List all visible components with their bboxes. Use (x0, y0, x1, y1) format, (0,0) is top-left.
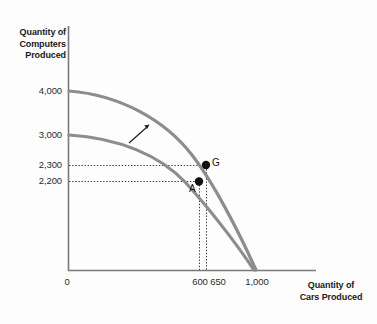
original-ppf-curve (69, 135, 254, 270)
x-tick-label-0: 0 (47, 276, 87, 287)
data-point-a (195, 177, 203, 185)
y-tick-label-2300: 2,300 (18, 159, 62, 170)
y-axis-title: Quantity of Computers Produced (8, 27, 66, 62)
x-tick-label-1000: 1,000 (237, 276, 277, 287)
x-tick-label-650: 650 (198, 276, 238, 287)
ppf-chart-figure: Quantity of Computers Produced Quantity … (0, 0, 377, 324)
growth-arrow-icon (129, 125, 150, 144)
x-axis-title: Quantity of Cars Produced (288, 280, 374, 303)
point-label-g: G (212, 157, 220, 168)
data-point-g (202, 161, 210, 169)
y-tick-label-2200: 2,200 (18, 175, 62, 186)
y-tick-label-4000: 4,000 (18, 85, 62, 96)
y-tick-label-3000: 3,000 (18, 129, 62, 140)
shifted-ppf-curve (69, 91, 256, 270)
point-label-a: A (189, 183, 196, 194)
